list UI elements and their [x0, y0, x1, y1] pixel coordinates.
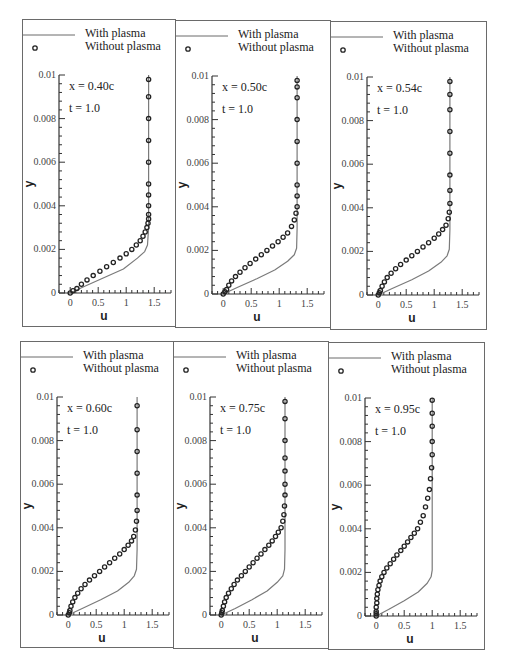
x-tick-label: 0 — [221, 298, 226, 309]
x-tick-label: 1 — [432, 299, 437, 310]
legend-label-without-plasma: Without plasma — [85, 39, 162, 53]
annotations: x = 0.60ct = 1.0 — [67, 401, 112, 437]
x-tick-label: 0.5 — [400, 299, 413, 310]
y-tick-label: 0.006 — [340, 479, 363, 490]
annotation-time: t = 1.0 — [67, 423, 98, 437]
x-tick-label: 1 — [430, 620, 435, 631]
y-tick-label: 0 — [49, 609, 54, 620]
y-tick-label: 0.01 — [347, 71, 365, 82]
annotation-position: x = 0.54c — [377, 81, 422, 95]
chart-panel-x050: With plasmaWithout plasma00.0020.0040.00… — [175, 20, 331, 328]
legend: With plasmaWithout plasma — [331, 28, 470, 55]
chart-panel-x075: With plasmaWithout plasma00.0020.0040.00… — [173, 341, 329, 649]
x-tick-label: 0.5 — [243, 619, 256, 630]
y-tick-label: 0.004 — [34, 200, 57, 211]
y-tick-label: 0.002 — [340, 566, 363, 577]
y-tick-label: 0.004 — [32, 522, 55, 533]
annotation-time: t = 1.0 — [222, 102, 253, 116]
chart-panel-x095: With plasmaWithout plasma00.0020.0040.00… — [328, 342, 485, 650]
chart-svg: With plasmaWithout plasma00.0020.0040.00… — [23, 20, 175, 326]
y-tick-label: 0.006 — [32, 478, 55, 489]
legend: With plasmaWithout plasma — [174, 348, 313, 375]
annotations: x = 0.40ct = 1.0 — [69, 79, 114, 115]
legend: With plasmaWithout plasma — [176, 27, 315, 54]
legend-label-with-plasma: With plasma — [236, 348, 297, 362]
y-tick-label: 0.006 — [342, 158, 365, 169]
x-tick-label: 1.5 — [456, 299, 469, 310]
x-tick-label: 0 — [374, 620, 379, 631]
x-axis-label: u — [100, 309, 107, 323]
legend-circle-marker-icon — [33, 46, 37, 50]
x-tick-label: 0.5 — [92, 297, 105, 308]
legend-circle-marker-icon — [339, 369, 343, 373]
y-tick-label: 0.008 — [185, 435, 208, 446]
y-tick-label: 0.002 — [185, 565, 208, 576]
y-tick-label: 0.002 — [342, 245, 365, 256]
chart-panel-x040: With plasmaWithout plasma00.0020.0040.00… — [22, 19, 176, 327]
x-tick-label: 0 — [68, 297, 73, 308]
legend-circle-marker-icon — [31, 368, 35, 372]
y-tick-label: 0.006 — [187, 157, 210, 168]
legend-circle-marker-icon — [186, 47, 190, 51]
y-tick-label: 0.004 — [340, 523, 363, 534]
chart-svg: With plasmaWithout plasma00.0020.0040.00… — [331, 22, 486, 329]
annotation-time: t = 1.0 — [220, 423, 251, 437]
x-tick-label: 0.5 — [245, 298, 258, 309]
legend-label-with-plasma: With plasma — [393, 28, 454, 42]
legend-label-with-plasma: With plasma — [83, 348, 144, 362]
chart-svg: With plasmaWithout plasma00.0020.0040.00… — [21, 342, 174, 647]
annotations: x = 0.75ct = 1.0 — [220, 401, 265, 437]
y-tick-label: 0.002 — [187, 244, 210, 255]
x-tick-label: 1.5 — [148, 297, 161, 308]
legend-label-without-plasma: Without plasma — [393, 41, 470, 55]
y-tick-label: 0.006 — [34, 156, 57, 167]
y-axis-label: y — [23, 180, 36, 187]
x-tick-label: 0.5 — [90, 619, 103, 630]
x-tick-label: 1 — [275, 619, 280, 630]
chart-svg: With plasmaWithout plasma00.0020.0040.00… — [329, 343, 484, 649]
legend-label-without-plasma: Without plasma — [238, 40, 315, 54]
annotations: x = 0.54ct = 1.0 — [377, 81, 422, 117]
annotation-position: x = 0.50c — [222, 80, 267, 94]
legend: With plasmaWithout plasma — [23, 26, 162, 53]
y-tick-label: 0 — [357, 610, 362, 621]
x-tick-label: 1.5 — [299, 619, 312, 630]
x-tick-label: 1 — [277, 298, 282, 309]
chart-panel-x054: With plasmaWithout plasma00.0020.0040.00… — [330, 21, 487, 330]
annotation-position: x = 0.95c — [375, 402, 420, 416]
x-axis-label: u — [406, 632, 413, 646]
y-tick-label: 0.004 — [187, 201, 210, 212]
x-axis-label: u — [98, 631, 105, 645]
x-tick-label: 1 — [124, 297, 129, 308]
legend-label-with-plasma: With plasma — [391, 349, 452, 363]
legend-label-without-plasma: Without plasma — [236, 361, 313, 375]
x-tick-label: 0 — [376, 299, 381, 310]
y-tick-label: 0.01 — [190, 391, 208, 402]
annotation-position: x = 0.40c — [69, 79, 114, 93]
y-tick-label: 0 — [204, 288, 209, 299]
y-tick-label: 0.008 — [32, 435, 55, 446]
x-tick-label: 1.5 — [146, 619, 159, 630]
y-tick-label: 0.004 — [185, 522, 208, 533]
chart-svg: With plasmaWithout plasma00.0020.0040.00… — [176, 21, 330, 327]
x-axis-label: u — [408, 311, 415, 325]
annotations: x = 0.50ct = 1.0 — [222, 80, 267, 116]
y-tick-label: 0.002 — [32, 565, 55, 576]
y-tick-label: 0.008 — [34, 113, 57, 124]
y-tick-label: 0.006 — [185, 478, 208, 489]
y-tick-label: 0 — [202, 609, 207, 620]
annotation-time: t = 1.0 — [69, 101, 100, 115]
y-tick-label: 0.008 — [342, 115, 365, 126]
legend: With plasmaWithout plasma — [21, 348, 160, 375]
legend-circle-marker-icon — [184, 368, 188, 372]
y-axis-label: y — [176, 181, 189, 188]
legend-label-with-plasma: With plasma — [85, 26, 146, 40]
y-tick-label: 0.008 — [340, 436, 363, 447]
x-tick-label: 0 — [219, 619, 224, 630]
y-tick-label: 0.01 — [37, 391, 55, 402]
x-axis-label: u — [253, 310, 260, 324]
chart-panel-x060: With plasmaWithout plasma00.0020.0040.00… — [20, 341, 175, 648]
annotation-time: t = 1.0 — [377, 103, 408, 117]
legend-label-with-plasma: With plasma — [238, 27, 299, 41]
x-tick-label: 1.5 — [454, 620, 467, 631]
